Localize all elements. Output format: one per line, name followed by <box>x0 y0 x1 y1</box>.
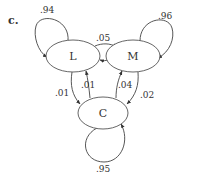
edge-L-C <box>71 72 80 104</box>
edge-label-C-C: .95 <box>96 164 111 173</box>
node-L: L <box>46 40 100 72</box>
figure-label: c. <box>8 14 19 27</box>
node-label-M: M <box>127 50 138 63</box>
markov-chain-diagram: c. .94 .96 .95 .05 .02 .01 .01 .04 .02 L… <box>0 0 204 173</box>
node-label-L: L <box>69 50 77 63</box>
edge-label-C-L: .01 <box>81 80 95 90</box>
edge-label-L-L: .94 <box>40 5 55 15</box>
edge-label-M-C: .02 <box>140 90 154 100</box>
edge-C-C <box>85 124 124 162</box>
edge-label-C-M: .04 <box>118 80 133 90</box>
node-C: C <box>78 97 128 129</box>
node-M: M <box>106 40 160 72</box>
node-label-C: C <box>99 107 107 120</box>
edge-label-M-M: .96 <box>158 11 173 21</box>
edge-label-L-M: .05 <box>96 33 111 43</box>
edge-label-L-C: .01 <box>55 88 69 98</box>
